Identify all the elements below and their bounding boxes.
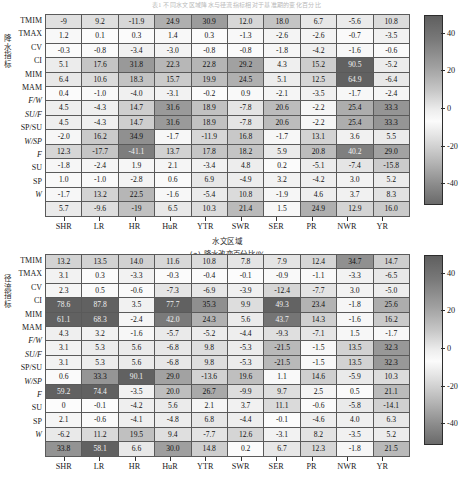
- heatmap-cell-value: -1.6: [167, 190, 179, 199]
- heatmap-cell: 19.5: [118, 427, 154, 441]
- heatmap-cell: 0.1: [82, 29, 118, 43]
- heatmap-cell-value: -4.3: [94, 118, 106, 127]
- x-label-ser: SER: [269, 222, 284, 231]
- heatmap-cell-value: 5.1: [277, 75, 287, 84]
- heatmap-cell-value: -4.0: [130, 89, 142, 98]
- heatmap-cell: -2.2: [300, 115, 336, 129]
- heatmap-cell-value: 13.5: [93, 257, 106, 266]
- heatmap-cell: 13.5: [337, 355, 373, 369]
- colorbar-tick: [441, 310, 445, 311]
- heatmap-cell: 61.1: [46, 312, 82, 326]
- heatmap-cell-value: 0.2: [241, 444, 251, 453]
- heatmap-cell: 9.7: [264, 384, 300, 398]
- heatmap-cell-value: 61.1: [57, 315, 70, 324]
- x-tick: [99, 217, 100, 221]
- heatmap-cell: 35.3: [191, 298, 227, 312]
- heatmap-cell: 3.0: [337, 173, 373, 187]
- heatmap-cell-value: -7.8: [240, 103, 252, 112]
- panel-a-y-axis-title: 降水指标: [0, 14, 13, 68]
- heatmap-cell: 24.5: [227, 72, 263, 86]
- heatmap-cell-value: -5.1: [312, 161, 324, 170]
- row-label-sp-su: SP/SU: [13, 121, 45, 134]
- heatmap-cell: -5.1: [300, 159, 336, 173]
- heatmap-cell: 3.2: [82, 327, 118, 341]
- colorbar-tick-label: 40: [447, 28, 455, 37]
- figure-page: 表1 不同水文区域降水与径流指标相对于基准期的变化百分比 降水指标 TMIMTM…: [0, 0, 473, 477]
- panel-a-heatmap: -99.2-11.924.930.912.018.06.7-5.610.81.2…: [45, 14, 410, 259]
- heatmap-cell-value: -9.9: [240, 387, 252, 396]
- heatmap-cell: 31.6: [155, 115, 191, 129]
- heatmap-row: -1.713.222.5-1.6-5.410.8-1.94.63.78.3: [46, 187, 410, 201]
- colorbar-tick: [441, 183, 445, 184]
- heatmap-cell: 5.7: [46, 202, 82, 216]
- heatmap-cell-value: 20.8: [312, 147, 325, 156]
- heatmap-cell: -4.2: [118, 399, 154, 413]
- heatmap-cell-value: 30.9: [203, 17, 216, 26]
- heatmap-cell-value: 3.2: [277, 175, 287, 184]
- heatmap-cell: 9.2: [82, 15, 118, 29]
- heatmap-cell: 0.3: [191, 29, 227, 43]
- heatmap-cell-value: 4.6: [314, 190, 324, 199]
- heatmap-row: -1.8-2.41.92.1-3.44.80.2-5.1-7.4-15.8: [46, 159, 410, 173]
- heatmap-row: 78.687.83.577.735.39.949.323.4-1.825.6: [46, 298, 410, 312]
- heatmap-cell-value: -1.0: [94, 175, 106, 184]
- heatmap-cell-value: 9.9: [241, 300, 251, 309]
- heatmap-cell: 14.6: [300, 370, 336, 384]
- heatmap-row: 5.117.631.822.322.829.24.315.290.5-5.2: [46, 58, 410, 72]
- heatmap-cell: -0.7: [337, 29, 373, 43]
- heatmap-cell-value: -6.4: [385, 75, 397, 84]
- heatmap-cell-value: 14.8: [203, 444, 216, 453]
- heatmap-cell: -1.8: [46, 159, 82, 173]
- heatmap-cell: -1.8: [337, 442, 373, 456]
- heatmap-cell: -3.3: [118, 269, 154, 283]
- heatmap-cell-value: -5.3: [240, 343, 252, 352]
- x-label-ytr: YTR: [197, 462, 213, 471]
- heatmap-cell: -6.5: [373, 269, 409, 283]
- heatmap-row: 4.33.2-1.6-5.7-5.2-4.4-9.3-7.11.5-1.7: [46, 327, 410, 341]
- heatmap-cell-value: -4.4: [240, 415, 252, 424]
- heatmap-cell: -0.6: [300, 399, 336, 413]
- heatmap-cell: 15.7: [155, 72, 191, 86]
- heatmap-cell: 12.4: [300, 255, 336, 269]
- heatmap-cell: 16.0: [373, 202, 409, 216]
- heatmap-cell-value: -2.2: [312, 103, 324, 112]
- heatmap-cell: 18.9: [191, 101, 227, 115]
- heatmap-cell-value: 0.3: [205, 31, 215, 40]
- row-label-mam: MAM: [13, 321, 45, 334]
- heatmap-cell: 1.2: [46, 29, 82, 43]
- x-label-nwr: NWR: [337, 462, 356, 471]
- heatmap-cell-value: 3.0: [350, 175, 360, 184]
- heatmap-cell: 32.3: [373, 341, 409, 355]
- heatmap-cell: -1.8: [337, 298, 373, 312]
- heatmap-cell-value: 20.6: [275, 118, 288, 127]
- heatmap-cell-value: -2.8: [130, 175, 142, 184]
- heatmap-cell-value: 3.7: [241, 401, 251, 410]
- heatmap-cell-value: -0.8: [94, 46, 106, 55]
- heatmap-row: 0.633.390.129.0-13.619.61.114.6-5.910.3: [46, 370, 410, 384]
- heatmap-cell: 1.0: [46, 173, 82, 187]
- heatmap-cell: 2.3: [46, 283, 82, 297]
- row-label-f-w: F/W: [13, 334, 45, 347]
- heatmap-cell: -3.5: [300, 87, 336, 101]
- heatmap-cell-value: -9.3: [276, 329, 288, 338]
- heatmap-cell-value: 33.3: [385, 118, 398, 127]
- heatmap-cell: 10.8: [373, 15, 409, 29]
- panel-b-y-axis-title: 径流指标: [0, 254, 13, 308]
- heatmap-cell-value: 33.3: [93, 372, 106, 381]
- heatmap-cell: 10.3: [191, 202, 227, 216]
- heatmap-cell: -1.6: [155, 187, 191, 201]
- heatmap-cell-value: 5.5: [386, 132, 396, 141]
- heatmap-cell: 4.6: [300, 187, 336, 201]
- heatmap-cell: -3.4: [191, 159, 227, 173]
- heatmap-cell: -11.9: [191, 130, 227, 144]
- heatmap-cell: -1.7: [337, 87, 373, 101]
- x-tick: [135, 217, 136, 221]
- x-tick: [205, 457, 206, 461]
- heatmap-cell-value: 15.7: [166, 75, 179, 84]
- heatmap-cell: 26.7: [191, 384, 227, 398]
- heatmap-row: 6.410.618.315.719.924.55.112.564.9-6.4: [46, 72, 410, 86]
- heatmap-cell: 25.4: [337, 101, 373, 115]
- heatmap-cell: -1.3: [227, 29, 263, 43]
- heatmap-cell: -5.9: [337, 370, 373, 384]
- heatmap-cell-value: 18.2: [239, 147, 252, 156]
